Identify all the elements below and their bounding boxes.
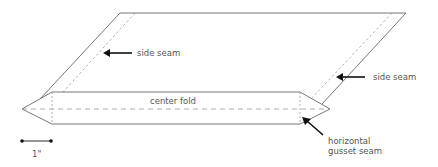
side-seam-left-label: side seam: [137, 48, 180, 58]
side-seams: [63, 13, 392, 100]
scale-label: 1": [32, 149, 41, 159]
bag-pattern-diagram: side seam side seam center fold horizont…: [0, 0, 438, 167]
scale-end-dot-icon: [49, 139, 53, 143]
side-seam-right-label: side seam: [373, 72, 416, 82]
left-edge: [40, 13, 120, 99]
left-gusset-point: [22, 92, 52, 124]
scale-start-dot-icon: [20, 139, 24, 143]
gusset-seam-label-line2: gusset seam: [328, 146, 382, 156]
right-edge: [322, 13, 406, 104]
arrow-left-side-seam-icon: [103, 49, 132, 57]
gusset-seam-label-line1: horizontal: [328, 136, 370, 146]
arrow-gusset-seam-icon: [302, 117, 323, 135]
right-side-seam-line: [310, 13, 392, 100]
center-fold-label: center fold: [150, 96, 196, 106]
scale-bar: [20, 139, 53, 143]
arrow-right-side-seam-icon: [336, 73, 365, 81]
back-panel: [40, 13, 406, 104]
